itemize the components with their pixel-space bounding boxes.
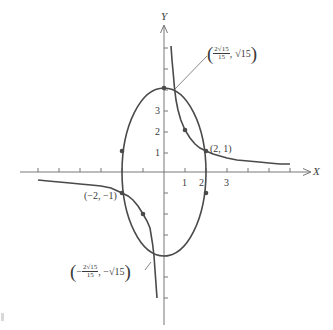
fraction: 2√1515 (82, 264, 98, 280)
y-tick-3: 3 (155, 106, 160, 116)
fraction-denominator: 15 (87, 272, 94, 279)
y-axis (161, 25, 169, 325)
y-axis-label: Y (161, 11, 167, 22)
separator: , (230, 48, 233, 59)
separator: , − (98, 266, 109, 277)
label-top-intersection: (2√1515,√15) (207, 44, 257, 63)
close-paren: ) (124, 261, 130, 282)
x-tick-1: 1 (182, 178, 187, 188)
fraction: 2√1515 (213, 46, 229, 62)
leader-bottom (145, 262, 151, 270)
x-axis-label: X (313, 166, 320, 177)
close-paren: ) (251, 43, 257, 64)
x-tick-2: 2 (199, 178, 204, 188)
y-tick-1: 1 (155, 148, 160, 158)
label-point-neg2-neg1: (−2, −1) (84, 191, 117, 201)
y-value: √15 (109, 266, 125, 277)
graph-canvas (0, 0, 333, 330)
x-axis (20, 168, 311, 176)
y-value: √15 (235, 48, 251, 59)
x-tick-3: 3 (224, 178, 229, 188)
label-point-2-1: (2, 1) (210, 144, 232, 154)
fraction-denominator: 15 (218, 54, 225, 61)
y-tick-2: 2 (155, 127, 160, 137)
scan-artifact (1, 313, 4, 321)
leader-top (175, 56, 207, 89)
label-bottom-intersection: (−2√1515, −√15) (70, 262, 131, 281)
